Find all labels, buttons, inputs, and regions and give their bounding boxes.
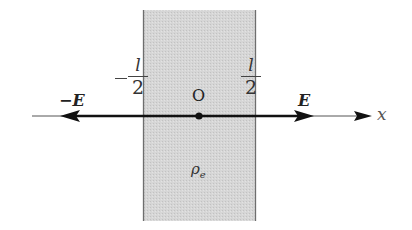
charge-density-subscript: e xyxy=(200,169,206,180)
right-boundary-label: l 2 xyxy=(241,57,261,97)
left-boundary-minus-sign xyxy=(115,78,127,79)
right-boundary-numerator: l xyxy=(248,57,253,74)
slab-field-diagram xyxy=(0,0,412,230)
left-boundary-label: l 2 xyxy=(128,57,148,97)
x-axis-label: x xyxy=(377,106,387,123)
origin-point xyxy=(195,112,202,119)
charge-density-symbol: ρ xyxy=(191,160,200,178)
left-boundary-numerator: l xyxy=(135,57,140,74)
positive-field-label: E xyxy=(298,93,310,109)
negative-field-label: −E xyxy=(59,93,85,109)
charge-density-label: ρe xyxy=(191,162,206,180)
right-boundary-denominator: 2 xyxy=(245,78,257,97)
origin-label: O xyxy=(192,88,205,104)
left-boundary-denominator: 2 xyxy=(132,78,144,97)
